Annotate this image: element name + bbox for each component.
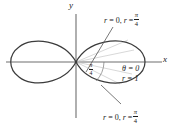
angle-marker-label: π4 (88, 63, 94, 76)
annotation-bottom-fraction-numerator: π (133, 109, 138, 117)
annotation-top-r1-symbol: r (104, 16, 107, 25)
annotation-theta-equals-zero: θ = 0 (122, 65, 139, 73)
annotation-top-fraction-denominator: 4 (134, 20, 139, 27)
annotation-top-equals-2: = (129, 16, 134, 25)
annotation-bottom-equals-1: = (108, 113, 113, 122)
annotation-top-zero: 0, (116, 16, 122, 25)
annotation-r-equals-one: r = 1 (122, 75, 139, 83)
annotation-top-fraction-numerator: π (134, 12, 139, 20)
annotation-top-right: r = 0, r =π4 (104, 12, 140, 27)
annotation-top-fraction: π4 (134, 12, 139, 27)
angle-marker-denominator: 4 (89, 70, 94, 76)
annotation-bottom-r2-symbol: r (123, 113, 126, 122)
annotation-bottom-equals-2: = (128, 113, 133, 122)
annotation-bottom-r1-symbol: r (103, 113, 106, 122)
annotation-bottom-fraction-denominator: 4 (133, 117, 138, 124)
origin-point (75, 61, 78, 64)
polar-curve-figure: y x r = 0, r =π4 r = 0, r =π4 θ = 0 r = … (0, 0, 176, 130)
annotation-bottom-right: r = 0, r =π4 (103, 109, 139, 124)
annotation-top-r2-symbol: r (124, 16, 127, 25)
leader-line-bottom (101, 85, 121, 104)
y-axis-label: y (69, 1, 73, 10)
x-axis-label: x (163, 55, 167, 64)
annotation-bottom-fraction: π4 (133, 109, 138, 124)
annotation-top-equals-1: = (109, 16, 114, 25)
angle-marker-fraction: π4 (89, 63, 94, 76)
angle-arc (96, 62, 104, 81)
annotation-bottom-zero: 0, (115, 113, 121, 122)
